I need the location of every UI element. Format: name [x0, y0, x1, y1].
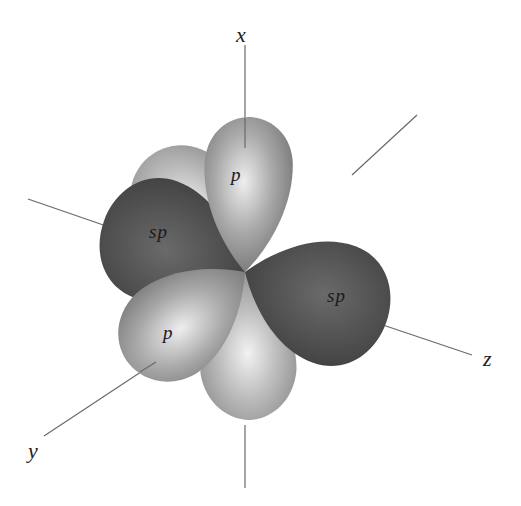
y-axis-label: y — [28, 440, 38, 462]
z-axis-label: z — [483, 348, 492, 370]
x-axis-label: x — [236, 24, 246, 46]
p-label-top: p — [231, 165, 242, 184]
sp-label-left: sp — [149, 222, 168, 241]
z-axis-line — [380, 324, 472, 355]
orbital-diagram — [0, 0, 521, 506]
p-label-bottom: p — [163, 323, 174, 342]
sp-axis-line-left — [28, 199, 112, 228]
sp-label-right: sp — [327, 286, 346, 305]
back-axis-line — [352, 115, 417, 175]
